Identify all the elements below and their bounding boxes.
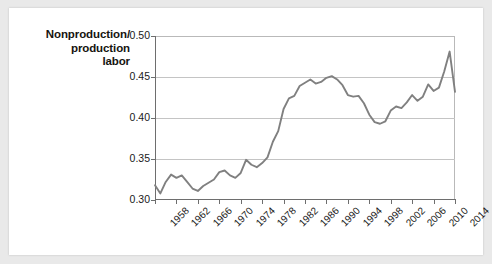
- x-tick-mark: [348, 200, 349, 204]
- y-tick-label: 0.50: [116, 29, 150, 41]
- x-tick-mark: [434, 200, 435, 204]
- x-tick-mark: [284, 200, 285, 204]
- x-tick-label: 2006: [425, 205, 449, 229]
- data-series-line: [155, 36, 455, 200]
- x-tick-label: 1990: [339, 205, 363, 229]
- x-tick-mark: [241, 200, 242, 204]
- plot-area: [155, 36, 455, 200]
- x-tick-mark: [326, 200, 327, 204]
- x-tick-mark: [176, 200, 177, 204]
- series-line: [155, 52, 455, 194]
- x-tick-label: 1970: [232, 205, 256, 229]
- y-tick-label: 0.45: [116, 70, 150, 82]
- x-tick-label: 1994: [360, 205, 384, 229]
- y-tick-label: 0.30: [116, 193, 150, 205]
- x-tick-label: 2002: [403, 205, 427, 229]
- y-tick-label: 0.40: [116, 111, 150, 123]
- y-axis-tick-labels: 0.300.350.400.450.50: [112, 36, 150, 200]
- x-tick-label: 1986: [318, 205, 342, 229]
- chart-screenshot: Nonproduction/ production labor 0.300.35…: [0, 0, 492, 264]
- x-tick-label: 1998: [382, 205, 406, 229]
- x-tick-mark: [155, 200, 156, 204]
- x-tick-label: 1962: [189, 205, 213, 229]
- x-tick-mark: [455, 200, 456, 204]
- x-tick-mark: [412, 200, 413, 204]
- x-tick-mark: [219, 200, 220, 204]
- x-tick-label: 1966: [210, 205, 234, 229]
- x-tick-label: 1982: [296, 205, 320, 229]
- x-tick-label: 1958: [168, 205, 192, 229]
- x-tick-label: 1974: [253, 205, 277, 229]
- x-tick-mark: [262, 200, 263, 204]
- x-tick-mark: [305, 200, 306, 204]
- x-axis-tick-labels: 1958196219661970197419781982198619901994…: [155, 205, 456, 249]
- x-tick-mark: [391, 200, 392, 204]
- x-tick-label: 1978: [275, 205, 299, 229]
- x-tick-mark: [369, 200, 370, 204]
- y-tick-label: 0.35: [116, 152, 150, 164]
- x-tick-mark: [198, 200, 199, 204]
